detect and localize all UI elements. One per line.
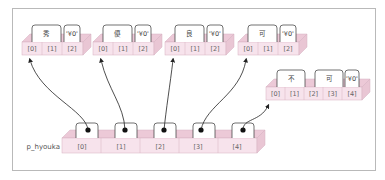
index-label: [0]	[170, 45, 179, 53]
char-cell: 優	[114, 29, 121, 38]
index-label: [2]	[210, 45, 219, 53]
char-cell: '¥0'	[209, 30, 221, 38]
char-cell: '¥0'	[137, 30, 149, 38]
index-label: [2]	[283, 45, 292, 53]
index-label: [0]	[271, 90, 280, 98]
index-label: [2]	[155, 143, 164, 151]
char-cell: 可	[326, 75, 333, 83]
index-label: [2]	[67, 45, 76, 53]
index-label: [1]	[47, 45, 56, 53]
string-array-1: 優 '¥0' [0] [1] [2]	[93, 25, 162, 55]
char-cell: '¥0'	[282, 30, 294, 38]
index-label: [1]	[190, 45, 199, 53]
index-label: [1]	[290, 90, 299, 98]
index-label: [3]	[328, 90, 337, 98]
arrow-icon	[30, 60, 88, 130]
index-label: [0]	[98, 45, 107, 53]
pointer-array: p_hyouka [0] [1] [2] [3] [4]	[27, 123, 265, 153]
index-label: [0]	[27, 45, 36, 53]
char-cell: 秀	[43, 29, 50, 38]
index-label: [1]	[263, 45, 272, 53]
char-cell: '¥0'	[346, 75, 358, 83]
string-array-4: 不 可 '¥0' [0] [1] [2] [3] [4]	[266, 70, 370, 100]
string-array-3: 可 '¥0' [0] [1] [2]	[238, 25, 307, 55]
char-cell: 不	[288, 75, 295, 83]
index-label: [3]	[193, 143, 202, 151]
string-array-0: 秀 '¥0' [0] [1] [2]	[22, 25, 91, 55]
index-label: [2]	[138, 45, 147, 53]
char-cell: 良	[186, 29, 193, 38]
index-label: [4]	[347, 90, 356, 98]
char-cell: 可	[259, 30, 266, 38]
index-label: [0]	[77, 143, 86, 151]
index-label: [4]	[232, 143, 241, 151]
index-label: [0]	[243, 45, 252, 53]
pointer-arrows	[30, 60, 268, 130]
array-name-label: p_hyouka	[27, 143, 60, 151]
arrow-icon	[101, 60, 125, 130]
pointer-array-diagram: 秀 '¥0' [0] [1] [2] 優 '¥0' [0] [1] [2] 良 …	[0, 0, 385, 180]
index-label: [2]	[309, 90, 318, 98]
arrow-icon	[164, 60, 173, 130]
string-array-2: 良 '¥0' [0] [1] [2]	[165, 25, 234, 55]
index-label: [1]	[116, 143, 125, 151]
char-cell: '¥0'	[66, 30, 78, 38]
arrow-icon	[201, 60, 246, 130]
index-label: [1]	[118, 45, 127, 53]
